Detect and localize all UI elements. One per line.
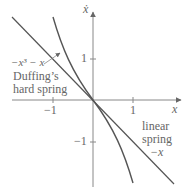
linear-formula-label: −x xyxy=(150,146,163,159)
cubic-name-line2: hard spring xyxy=(13,83,67,96)
cubic-formula-label: −x³ − x xyxy=(11,56,44,69)
x-tick-label-1: 1 xyxy=(130,104,136,117)
label-pointer-arrow xyxy=(44,53,60,64)
y-tick-label-neg1: −1 xyxy=(74,135,87,148)
x-axis xyxy=(12,97,181,103)
phase-diagram xyxy=(0,0,191,193)
x-tick-label-neg1: −1 xyxy=(44,104,57,117)
x-axis-label: x xyxy=(172,103,177,116)
y-tick-label-1: 1 xyxy=(81,52,87,65)
y-axis-label: ẋ xyxy=(83,3,88,16)
